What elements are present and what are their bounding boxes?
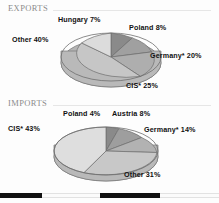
imports-label-cis: CIS* 43% (8, 124, 40, 133)
exports-section: EXPORTS Hungary 7% Poland 8% Germany* 20… (0, 0, 219, 96)
exports-section-title: EXPORTS (8, 3, 48, 13)
imports-header-rule (53, 105, 211, 106)
footer-bar-segment-gap-1 (42, 193, 100, 198)
footer-bar-segment-middle (100, 193, 160, 198)
footer-bar (0, 193, 219, 198)
exports-label-cis: CIS* 25% (126, 81, 158, 90)
exports-label-poland: Poland 8% (129, 23, 166, 32)
exports-label-hungary: Hungary 7% (58, 15, 101, 24)
exports-label-germany: Germany* 20% (150, 51, 202, 60)
imports-section-title: IMPORTS (8, 98, 47, 108)
footer-bar-segment-gap-2 (160, 193, 219, 198)
imports-label-austria: Austria 8% (112, 109, 150, 118)
exports-header-rule (53, 10, 211, 11)
imports-section: IMPORTS Poland 4% Austria 8% Germany* 14… (0, 96, 219, 188)
imports-label-poland: Poland 4% (63, 109, 100, 118)
imports-label-other: Other 31% (124, 170, 160, 179)
exports-label-other: Other 40% (12, 35, 48, 44)
footer-bar-segment-left (0, 193, 42, 198)
imports-label-germany: Germany* 14% (144, 125, 196, 134)
